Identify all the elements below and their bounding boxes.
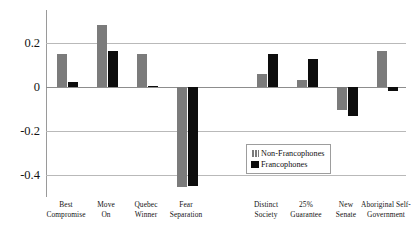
y-axis-tick-label: 0.2 — [0, 36, 40, 51]
category-label-line: Government — [360, 210, 412, 220]
category-label-line: Separation — [160, 210, 212, 220]
legend-swatch-icon — [251, 161, 259, 168]
bar — [108, 51, 118, 87]
bar-group — [87, 17, 127, 197]
bar — [308, 59, 318, 88]
x-axis-category-label: Aboriginal Self-Government — [360, 200, 412, 219]
bar — [188, 87, 198, 186]
bar — [68, 82, 78, 87]
bar — [297, 80, 307, 87]
bar-chart: 0.20-0.2-0.4 BestCompromiseMoveOnQuebecW… — [0, 0, 417, 244]
legend: Non-Francophones Francophones — [246, 144, 331, 174]
category-label-line: Fear — [160, 200, 212, 210]
bar-group — [167, 17, 207, 197]
y-axis-tick-label: -0.4 — [0, 168, 40, 183]
bar-group — [367, 17, 407, 197]
bar-group — [207, 17, 247, 197]
plot-area — [46, 17, 406, 197]
bar — [268, 54, 278, 87]
bar — [97, 25, 107, 88]
bar — [148, 86, 158, 87]
bar — [337, 87, 347, 110]
bar — [177, 87, 187, 187]
category-label-line: Aboriginal Self- — [360, 200, 412, 210]
bar-group — [327, 17, 367, 197]
x-axis-category-label: FearSeparation — [160, 200, 212, 219]
y-axis-tick-label: -0.2 — [0, 124, 40, 139]
bar — [57, 54, 67, 87]
legend-item-francophones: Francophones — [251, 159, 325, 170]
bar — [137, 54, 147, 87]
y-axis-tick-label: 0 — [0, 80, 40, 95]
legend-swatch-icon — [251, 150, 259, 157]
bar-group — [47, 17, 87, 197]
bar — [348, 87, 358, 116]
legend-label: Francophones — [261, 160, 308, 169]
bar — [257, 74, 267, 87]
bar — [377, 51, 387, 87]
legend-item-non-francophones: Non-Francophones — [251, 148, 325, 159]
legend-label: Non-Francophones — [261, 149, 325, 158]
bar-group — [127, 17, 167, 197]
bar-groups — [47, 17, 406, 197]
bar — [388, 87, 398, 91]
x-axis-category-labels: BestCompromiseMoveOnQuebecWinnerFearSepa… — [46, 200, 406, 240]
